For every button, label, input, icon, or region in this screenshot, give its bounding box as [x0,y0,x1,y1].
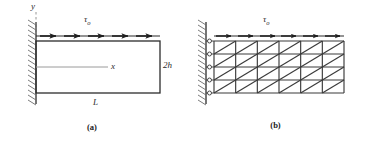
panel-a-continuum-model: y τo x 2h L (a) [0,0,184,146]
figure-container: y τo x 2h L (a) [0,0,367,146]
fixed-wall-support [28,20,36,105]
tau-subscript: o [87,19,90,26]
constrained-node-group [206,39,214,95]
label-traction-tau-o: τo [84,14,90,26]
label-length-L: L [93,97,98,107]
label-traction-tau-o: τo [263,14,269,26]
fixed-wall-support [198,20,206,105]
panel-a-caption: (a) [0,122,184,132]
tau-subscript: o [266,19,269,26]
panel-b-finite-element-mesh: τo (b) [184,0,367,146]
label-x-axis: x [111,61,115,71]
label-height-2h: 2h [163,60,172,70]
panel-b-caption: (b) [184,120,367,130]
label-y-axis: y [31,1,35,11]
